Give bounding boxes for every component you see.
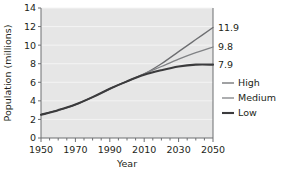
chart-canvas: 02468101214 195019701990201020302050 11.… — [0, 0, 288, 171]
y-tick-label: 12 — [24, 21, 36, 32]
y-tick-label: 2 — [30, 114, 36, 125]
y-tick-label: 14 — [24, 2, 36, 13]
y-tick-label: 0 — [30, 132, 36, 143]
x-axis-title: Year — [116, 158, 137, 169]
population-projection-chart: 02468101214 195019701990201020302050 11.… — [0, 0, 288, 171]
plot-area-background — [41, 8, 213, 138]
y-tick-label: 10 — [24, 40, 36, 51]
y-tick-label: 4 — [30, 95, 36, 106]
legend-label-medium: Medium — [238, 92, 276, 103]
y-tick-label: 8 — [30, 58, 36, 69]
x-tick-label: 2030 — [167, 144, 191, 155]
end-label-medium: 9.8 — [218, 41, 233, 52]
x-tick-label: 1990 — [98, 144, 122, 155]
legend-label-high: High — [238, 77, 260, 88]
x-tick-label: 1970 — [63, 144, 87, 155]
x-tick-label: 2010 — [132, 144, 156, 155]
y-axis-title: Population (millions) — [2, 25, 13, 122]
end-label-high: 11.9 — [218, 22, 239, 33]
x-tick-label: 1950 — [29, 144, 53, 155]
x-tick-label: 2050 — [201, 144, 225, 155]
legend-label-low: Low — [238, 107, 257, 118]
end-label-low: 7.9 — [218, 59, 233, 70]
y-tick-label: 6 — [30, 77, 36, 88]
